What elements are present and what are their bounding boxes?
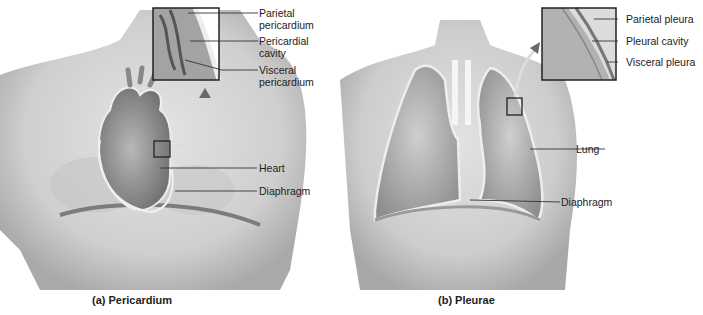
label-heart: Heart [259, 162, 285, 174]
label-line: pericardium [259, 19, 314, 31]
pleurae-panel: Parietal pleura Pleural cavity Visceral … [340, 0, 703, 315]
caption-pleurae: (b) Pleurae [438, 294, 495, 306]
label-line: Visceral [259, 64, 314, 76]
caption-pericardium: (a) Pericardium [92, 294, 172, 306]
pericardium-panel: Parietal pericardium Pericardial cavity … [0, 0, 350, 315]
label-diaphragm: Diaphragm [259, 185, 310, 197]
label-visceral-pericardium: Visceral pericardium [259, 64, 314, 88]
label-lung: Lung [576, 143, 599, 155]
label-parietal-pleura: Parietal pleura [626, 13, 694, 25]
label-pleural-cavity: Pleural cavity [626, 35, 688, 47]
label-line: pericardium [259, 76, 314, 88]
pleurae-illustration [340, 0, 703, 315]
label-line: Pericardial [259, 35, 309, 47]
label-pericardial-cavity: Pericardial cavity [259, 35, 309, 59]
pericardium-inset [153, 8, 219, 80]
label-line: cavity [259, 47, 309, 59]
label-line: Parietal [259, 7, 314, 19]
label-diaphragm: Diaphragm [561, 196, 612, 208]
label-visceral-pleura: Visceral pleura [626, 56, 695, 68]
label-parietal-pericardium: Parietal pericardium [259, 7, 314, 31]
